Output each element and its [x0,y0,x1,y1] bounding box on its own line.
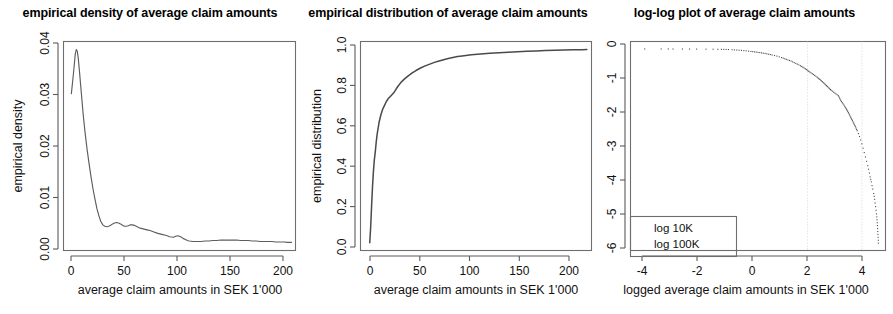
loglog-point [863,148,864,149]
loglog-point [875,202,876,203]
density-xtick-0: 0 [68,264,75,278]
loglog-ytick-3: -3 [605,140,619,151]
loglog-point [774,55,775,56]
loglog-point [741,50,742,51]
loglog-point [734,49,735,50]
loglog-point [798,64,799,65]
loglog-point [761,52,762,53]
ecdf-xtick-3: 150 [509,264,529,278]
loglog-point [743,50,744,51]
loglog-point [759,52,760,53]
loglog-point [876,213,877,214]
loglog-point [831,90,832,91]
loglog-point [838,95,839,96]
loglog-point [851,118,852,119]
ecdf-ytick-3: 0.6 [335,117,349,134]
loglog-point [874,196,875,197]
density-curve [71,50,291,243]
loglog-point [776,56,777,57]
loglog-point [840,99,841,100]
loglog-point [794,62,795,63]
loglog-point [834,92,835,93]
loglog-point [878,240,879,241]
loglog-point [869,172,870,173]
loglog-point [839,97,840,98]
loglog-point [855,126,856,127]
loglog-point [800,65,801,66]
loglog-point [853,123,854,124]
ecdf-ytick-0: 0.0 [335,238,349,255]
loglog-point [860,139,861,140]
loglog-y-axis: 0 -1 -2 -3 -4 -5 -6 logged survival prob… [596,40,625,253]
panel-empirical-distribution: empirical distribution of average claim … [298,0,598,314]
loglog-ytick-4: -4 [605,174,619,185]
loglog-point [721,49,722,50]
loglog-point [850,115,851,116]
loglog-point [848,112,849,113]
loglog-point [870,176,871,177]
ecdf-xtick-2: 100 [459,264,479,278]
loglog-point [843,104,844,105]
loglog-point [851,119,852,120]
loglog-point [873,193,874,194]
loglog-point [845,107,846,108]
loglog-point [814,75,815,76]
loglog-point [763,53,764,54]
ecdf-x-axis: 0 50 100 150 200 average claim amounts i… [367,256,580,297]
loglog-point [802,67,803,68]
loglog-x-axis-title: logged average claim amounts in SEK 1'00… [623,283,869,297]
loglog-point [672,48,673,49]
loglog-point [874,199,875,200]
loglog-point [848,113,849,114]
loglog-ytick-0: 0 [605,40,619,47]
loglog-point [808,71,809,72]
loglog-point [850,117,851,118]
loglog-point [689,49,690,50]
density-xtick-2: 100 [167,264,187,278]
ecdf-ytick-5: 1.0 [335,36,349,53]
loglog-point [805,68,806,69]
loglog-point [867,165,868,166]
density-ytick-3: 0.03 [38,82,52,106]
loglog-point [877,225,878,226]
loglog-xtick-2: 0 [749,264,756,278]
loglog-point [844,106,845,107]
loglog-point [812,73,813,74]
loglog-point [871,185,872,186]
loglog-plot-frame [631,42,886,251]
loglog-point [876,219,877,220]
loglog-point [726,49,727,50]
density-plot-frame [64,42,296,251]
loglog-point [808,70,809,71]
density-ytick-2: 0.02 [38,134,52,158]
loglog-point [731,49,732,50]
loglog-point [807,70,808,71]
loglog-point [728,49,729,50]
loglog-reference-lines [808,42,862,251]
loglog-point [877,231,878,232]
loglog-point [845,108,846,109]
loglog-scatter-points [644,48,879,243]
loglog-point [840,100,841,101]
loglog-point [841,101,842,102]
loglog-point [857,130,858,131]
ecdf-ytick-1: 0.2 [335,198,349,215]
loglog-point [748,51,749,52]
loglog-point [809,72,810,73]
density-xtick-3: 150 [220,264,240,278]
loglog-point [739,50,740,51]
loglog-point [770,54,771,55]
panel-log-log-plot: log-log plot of average claim amounts 0 … [596,0,893,314]
loglog-point [849,114,850,115]
loglog-point [876,210,877,211]
density-ytick-0: 0.00 [38,237,52,261]
density-y-axis: 0.00 0.01 0.02 0.03 0.04 empirical densi… [11,31,58,261]
loglog-point [713,49,714,50]
loglog-point [855,127,856,128]
ecdf-plot-frame [361,42,592,251]
loglog-ytick-2: -2 [605,106,619,117]
loglog-ytick-6: -6 [605,242,619,253]
loglog-point [803,67,804,68]
loglog-point [842,103,843,104]
loglog-point [668,48,669,49]
